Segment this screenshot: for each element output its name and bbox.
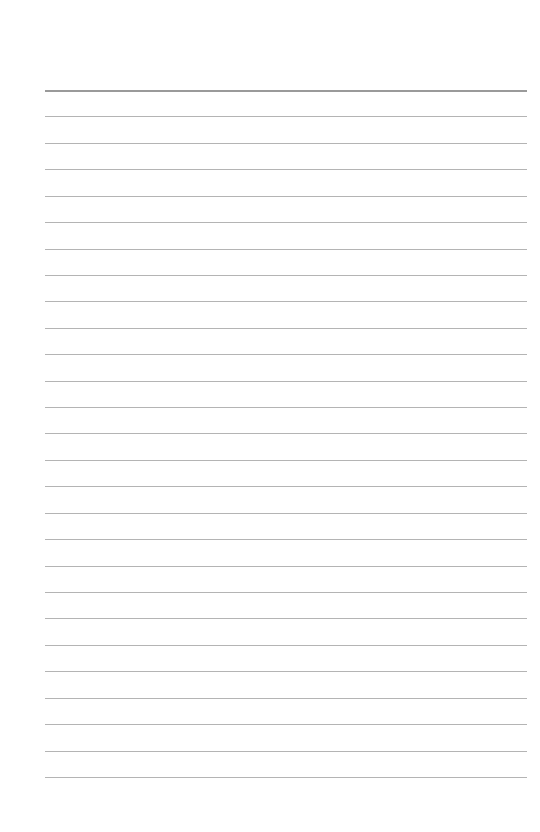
rule-line: [45, 433, 527, 434]
rule-line: [45, 671, 527, 672]
rule-line: [45, 381, 527, 382]
rule-line: [45, 645, 527, 646]
rule-line: [45, 777, 527, 778]
rule-line: [45, 751, 527, 752]
rule-line: [45, 328, 527, 329]
rule-line: [45, 116, 527, 117]
rule-line: [45, 143, 527, 144]
rule-line: [45, 460, 527, 461]
rule-line: [45, 566, 527, 567]
rule-line: [45, 301, 527, 302]
rule-line: [45, 354, 527, 355]
rule-line: [45, 724, 527, 725]
rule-line: [45, 698, 527, 699]
rule-line: [45, 513, 527, 514]
rule-line: [45, 539, 527, 540]
rule-line: [45, 486, 527, 487]
lined-paper-page: [0, 0, 540, 832]
rule-line: [45, 592, 527, 593]
rule-line: [45, 407, 527, 408]
top-rule-line: [45, 90, 527, 92]
rule-line: [45, 169, 527, 170]
rule-line: [45, 196, 527, 197]
rule-line: [45, 618, 527, 619]
rule-line: [45, 249, 527, 250]
rule-line: [45, 222, 527, 223]
rule-line: [45, 275, 527, 276]
